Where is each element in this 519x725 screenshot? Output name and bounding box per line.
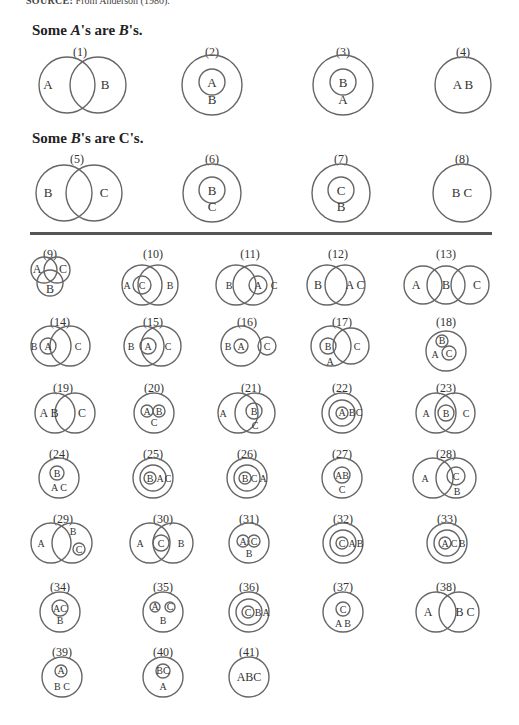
set-label: A	[44, 341, 52, 352]
set-circle	[416, 592, 456, 632]
set-label: C	[252, 420, 259, 431]
set-circle	[70, 57, 126, 113]
set-label: C	[451, 538, 458, 549]
diagram-number: (13)	[436, 247, 456, 261]
set-label: B	[337, 199, 346, 214]
set-label: C	[340, 604, 347, 615]
set-circle	[216, 265, 256, 305]
set-label: C	[59, 262, 67, 276]
set-label: B	[101, 77, 110, 92]
set-label: A	[338, 92, 348, 107]
set-label: B	[160, 615, 167, 626]
set-label: C	[339, 484, 346, 495]
set-label: A	[219, 408, 227, 419]
diagram-22: (22)ABC	[322, 381, 363, 433]
diagram-29: (29)ABC	[31, 512, 92, 563]
set-label: B	[246, 548, 253, 559]
set-label: A	[259, 473, 267, 484]
set-label: C	[354, 341, 361, 352]
set-label: C	[208, 199, 217, 214]
diagram-38: (38)AB C	[416, 580, 479, 632]
set-label: A	[57, 665, 65, 676]
set-label: C	[339, 538, 346, 549]
diagram-35: (35)ACB	[143, 580, 183, 632]
diagram-32: (32)CAB	[323, 512, 364, 563]
set-label: C	[151, 417, 158, 428]
set-label: A	[412, 278, 421, 292]
diagram-37: (37)CA B	[323, 580, 363, 632]
set-label: A	[441, 538, 449, 549]
set-label: B	[339, 75, 348, 90]
diagram-27: (27)ABC	[322, 447, 362, 498]
set-label: A	[262, 607, 270, 618]
diagram-33: (33)ACB	[427, 512, 467, 563]
set-label: B	[251, 406, 258, 417]
set-label: B C	[455, 605, 474, 619]
set-label: B	[167, 280, 174, 291]
set-label: A	[151, 601, 159, 612]
set-label: C	[167, 601, 174, 612]
set-label: B	[128, 341, 135, 352]
venn-diagram-canvas: (1)AB(2)AB(3)BA(4)A B(5)BC(6)BC(7)CB(8)B…	[0, 0, 519, 725]
set-label: AC	[53, 603, 67, 614]
set-label: B	[325, 341, 332, 352]
diagram-number: (12)	[328, 247, 348, 261]
set-label: C	[165, 473, 172, 484]
diagram-number: (18)	[436, 315, 456, 329]
diagram-number: (1)	[73, 45, 87, 59]
diagram-5: (5)BC	[36, 152, 122, 221]
diagram-4: (4)A B	[435, 45, 491, 113]
set-label: C	[264, 341, 271, 352]
set-label: B	[46, 282, 54, 296]
set-label: C	[473, 278, 481, 292]
set-label: B	[44, 185, 53, 200]
diagram-number: (2)	[205, 45, 219, 59]
set-label: A	[424, 605, 433, 619]
set-label: C	[76, 544, 83, 555]
diagram-31: (31)ACB	[229, 512, 269, 563]
diagram-number: (3)	[336, 45, 350, 59]
diagram-7: (7)CB	[312, 152, 370, 222]
set-label: C	[165, 341, 172, 352]
set-label: B	[443, 408, 450, 419]
set-label: B	[178, 538, 185, 549]
set-label: A	[237, 341, 245, 352]
set-label: B	[208, 183, 217, 198]
set-label: C	[75, 341, 82, 352]
diagram-9: (9)ACB	[31, 247, 70, 296]
set-label: B	[156, 406, 163, 417]
set-label: B	[255, 607, 262, 618]
set-label: A	[159, 681, 167, 692]
diagram-10: (10)ACB	[122, 247, 178, 305]
diagram-34: (34)ACB	[40, 580, 80, 632]
set-label: C	[271, 280, 278, 291]
set-label: B	[454, 486, 461, 497]
set-label: C	[463, 408, 470, 419]
diagram-39: (39)AB C	[42, 645, 82, 697]
diagram-26: (26)BCA	[227, 447, 267, 498]
diagram-number: (11)	[240, 247, 260, 261]
set-label: A	[43, 77, 53, 92]
set-label: C	[245, 607, 252, 618]
set-label: A	[338, 407, 346, 418]
set-label: C	[139, 280, 146, 291]
diagram-40: (40)BCA	[143, 645, 183, 697]
set-label: A	[254, 280, 262, 291]
set-label: A	[348, 538, 356, 549]
set-label: ABC	[237, 670, 262, 684]
set-label: C	[100, 185, 109, 200]
set-label: B	[242, 473, 249, 484]
set-label: A	[431, 349, 439, 360]
diagram-15: (15)BAC	[124, 315, 181, 366]
set-label: A B	[335, 618, 351, 629]
diagram-13: (13)ABC	[404, 247, 489, 304]
set-label: A	[207, 75, 217, 90]
set-label: A	[239, 536, 247, 547]
diagram-11: (11)BAC	[216, 247, 278, 305]
set-label: A B	[39, 406, 58, 420]
set-label: A C	[345, 278, 364, 292]
diagram-14: (14)BAC	[31, 315, 90, 366]
diagram-41: (41)ABC	[229, 645, 269, 697]
diagram-2: (2)AB	[182, 45, 242, 115]
set-label: B	[357, 538, 364, 549]
